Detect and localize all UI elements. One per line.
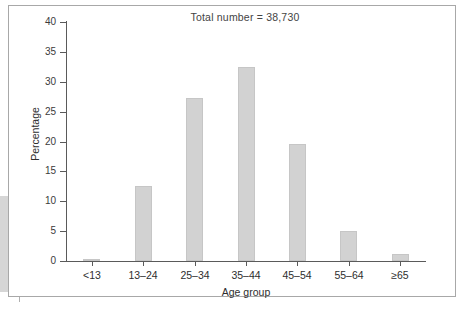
y-tick bbox=[60, 82, 67, 83]
x-tick bbox=[246, 262, 247, 266]
bar bbox=[186, 98, 203, 261]
x-tick bbox=[349, 262, 350, 266]
x-tick bbox=[143, 262, 144, 266]
bar-chart: Total number = 38,730 0510152025303540 <… bbox=[0, 0, 464, 309]
y-tick-label: 35 bbox=[22, 47, 56, 57]
y-axis-title: Percentage bbox=[29, 89, 41, 179]
bar bbox=[83, 259, 100, 261]
y-tick-label: 30 bbox=[22, 77, 56, 87]
y-tick-label: 0 bbox=[22, 256, 56, 266]
y-tick-label: 5 bbox=[22, 226, 56, 236]
y-tick bbox=[60, 261, 67, 262]
x-tick bbox=[195, 262, 196, 266]
y-tick-label: 10 bbox=[22, 196, 56, 206]
y-tick bbox=[60, 142, 67, 143]
bar bbox=[289, 144, 306, 261]
y-tick bbox=[60, 231, 67, 232]
chart-title: Total number = 38,730 bbox=[60, 11, 430, 23]
bar bbox=[238, 67, 255, 261]
bar bbox=[135, 186, 152, 261]
y-tick bbox=[60, 52, 67, 53]
x-tick bbox=[400, 262, 401, 266]
x-tick bbox=[297, 262, 298, 266]
x-tick bbox=[92, 262, 93, 266]
bar bbox=[340, 231, 357, 261]
y-tick-label: 40 bbox=[22, 17, 56, 27]
y-tick bbox=[60, 112, 67, 113]
y-tick bbox=[60, 171, 67, 172]
x-axis-title: Age group bbox=[66, 286, 426, 298]
bar bbox=[392, 254, 409, 261]
y-tick bbox=[60, 201, 67, 202]
x-tick-label: ≥65 bbox=[368, 269, 432, 281]
y-tick bbox=[60, 22, 67, 23]
